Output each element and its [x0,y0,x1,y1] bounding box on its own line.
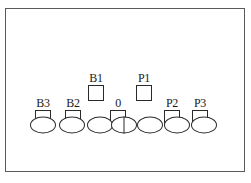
marker-label-b1: B1 [89,72,102,84]
ellipse-7[interactable] [191,117,217,134]
marker-square-p1[interactable] [136,85,152,101]
outer-panel-border [5,8,245,172]
ellipse-6[interactable] [164,117,190,134]
marker-label-p3: P3 [194,97,206,109]
marker-label-p1: P1 [138,72,150,84]
marker-square-b1[interactable] [88,85,104,101]
ellipse-5[interactable] [137,117,163,134]
marker-label-b2: B2 [66,97,79,109]
marker-label-b3: B3 [36,97,49,109]
ellipse-divider-line [124,116,125,134]
ellipse-divided-4[interactable] [111,117,137,134]
ellipse-2[interactable] [59,117,85,134]
ellipse-3[interactable] [87,117,113,134]
diagram-canvas: B3B2B10P1P2P3 [0,0,251,183]
ellipse-1[interactable] [30,117,56,134]
marker-label-0: 0 [115,97,121,109]
marker-label-p2: P2 [166,97,178,109]
